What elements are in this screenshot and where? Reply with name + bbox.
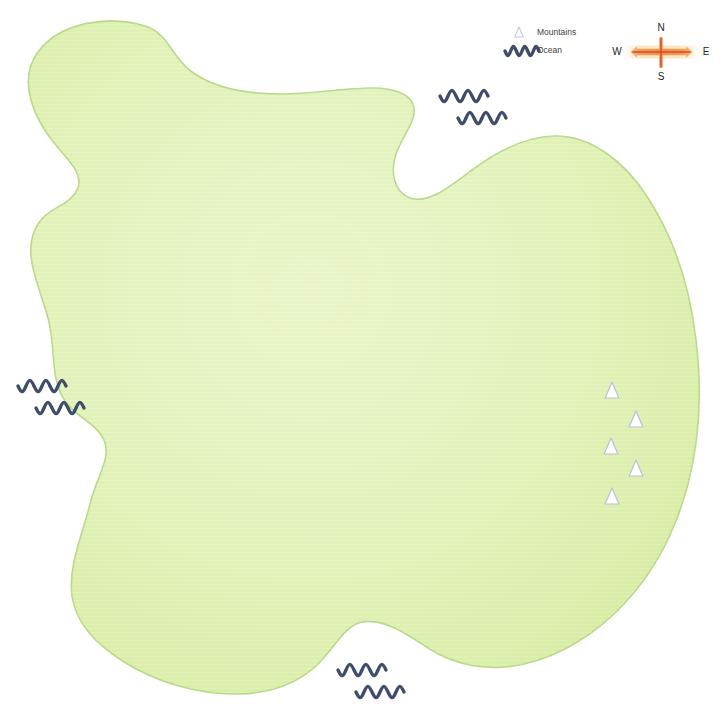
ocean-wave-marker[interactable] [440, 90, 506, 123]
island-paper-texture [28, 21, 699, 694]
map-illustration: Mountains Ocean N S W E [0, 0, 723, 727]
wave-line-icon [356, 686, 404, 697]
compass-label-south: S [658, 71, 665, 82]
wave-line-icon [505, 47, 539, 56]
wave-line-icon [458, 112, 506, 123]
wave-line-icon [440, 90, 488, 101]
compass-rose[interactable]: N S W E [612, 22, 709, 82]
map-legend: Mountains Ocean [505, 27, 576, 56]
wave-line-icon [338, 664, 386, 675]
compass-label-west: W [612, 46, 622, 57]
ocean-wave-marker[interactable] [338, 664, 404, 697]
compass-label-east: E [703, 46, 710, 57]
legend-label-mountains: Mountains [537, 27, 576, 37]
legend-item-mountains[interactable]: Mountains [515, 27, 577, 37]
map-canvas: Mountains Ocean N S W E [0, 0, 723, 727]
legend-item-ocean[interactable]: Ocean [505, 45, 562, 55]
compass-label-north: N [657, 22, 664, 33]
triangle-outline-icon [515, 27, 524, 37]
legend-label-ocean: Ocean [537, 45, 562, 55]
island-landmass-group [28, 21, 699, 694]
